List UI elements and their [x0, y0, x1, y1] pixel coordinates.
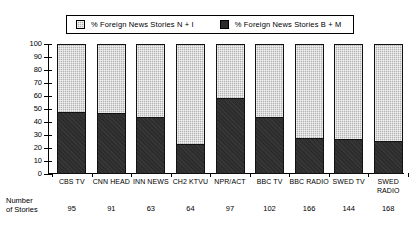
x-tick-mark [210, 173, 211, 177]
bar-segment-b-m [296, 138, 323, 173]
y-tick-label: 100 [29, 40, 42, 48]
bar-segment-b-m [177, 144, 204, 173]
y-tick-label: 90 [34, 53, 42, 61]
legend-swatch-light-checker-icon [76, 20, 85, 29]
x-tick-label: SWED RADIO [361, 178, 415, 195]
x-tick-mark [368, 173, 369, 177]
x-tick-mark [408, 173, 409, 177]
bar-stack [374, 44, 403, 174]
y-tick-label: 40 [34, 118, 42, 126]
x-tick-mark [171, 173, 172, 177]
x-tick-mark [131, 173, 132, 177]
bar-stack [57, 44, 86, 174]
x-tick-mark [329, 173, 330, 177]
x-tick-mark [289, 173, 290, 177]
legend-swatch-dark-solid-icon [220, 20, 229, 29]
x-tick-mark [250, 173, 251, 177]
y-tick-label: 30 [34, 131, 42, 139]
legend-entry-foreign-news-n-i: % Foreign News Stories N + I [76, 16, 194, 33]
number-of-stories-values: 9591636497102166144168 [48, 204, 404, 216]
bar-segment-b-m [58, 112, 85, 173]
y-tick-label: 60 [34, 92, 42, 100]
bar-segment-b-m [217, 98, 244, 173]
story-count-value: 168 [361, 204, 415, 213]
y-tick-label: 70 [34, 79, 42, 87]
bar-segment-b-m [137, 117, 164, 173]
bar-stack [176, 44, 205, 174]
bar-segment-b-m [98, 113, 125, 173]
y-tick-label: 10 [34, 157, 42, 165]
y-tick-label: 80 [34, 66, 42, 74]
bar-series-group [48, 44, 404, 174]
legend-label-b-m: % Foreign News Stories B + M [235, 21, 342, 29]
x-axis-labels: CBS TVCNN HEADINN NEWSCH2 KTVUNPR/ACTBBC… [48, 178, 404, 204]
bar-stack [295, 44, 324, 174]
bar-stack [334, 44, 363, 174]
x-tick-mark [92, 173, 93, 177]
bar-stack [136, 44, 165, 174]
y-tick-label: 0 [38, 170, 42, 178]
plot-area: 0102030405060708090100 [48, 44, 404, 174]
bar-segment-b-m [375, 141, 402, 174]
x-tick-mark [52, 173, 53, 177]
number-of-stories-label: Number of Stories [6, 196, 38, 214]
y-tick-label: 20 [34, 144, 42, 152]
y-tick-mark [44, 174, 52, 175]
bar-segment-b-m [256, 117, 283, 173]
bar-stack [97, 44, 126, 174]
legend-entry-foreign-news-b-m: % Foreign News Stories B + M [220, 16, 342, 33]
bar-segment-b-m [335, 139, 362, 173]
bar-stack [255, 44, 284, 174]
legend-label-n-i: % Foreign News Stories N + I [91, 21, 194, 29]
chart-legend: % Foreign News Stories N + I % Foreign N… [66, 15, 354, 34]
bar-stack [216, 44, 245, 174]
y-tick-label: 50 [34, 105, 42, 113]
